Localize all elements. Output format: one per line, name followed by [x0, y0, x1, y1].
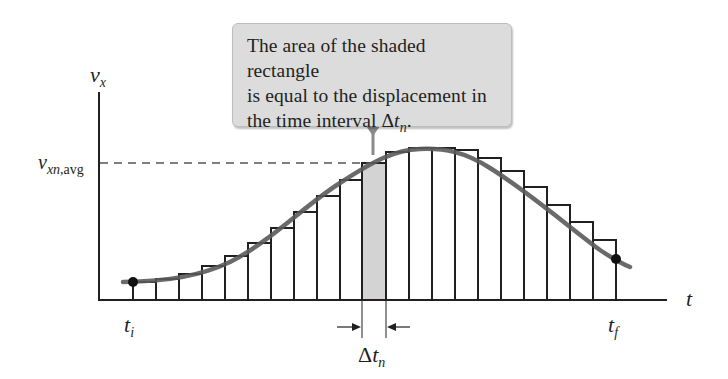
delta-t-arrows: [337, 323, 410, 331]
avg-velocity-label: vxn,avg: [38, 152, 84, 177]
callout-box: The area of the shaded rectangle is equa…: [232, 23, 512, 127]
shaded-rectangle: [362, 163, 386, 300]
callout-line-2: is equal to the displacement in: [247, 83, 499, 108]
end-point: [611, 254, 621, 264]
callout-line-1: The area of the shaded rectangle: [247, 33, 499, 83]
t-final-label: tf: [608, 314, 618, 340]
t-initial-label: ti: [124, 314, 134, 340]
callout-line-3: the time interval Δtn.: [247, 108, 499, 140]
delta-t-label: Δtn: [358, 344, 385, 370]
start-point: [128, 277, 138, 287]
y-axis-label: vx: [90, 64, 106, 90]
x-axis-label: t: [686, 288, 692, 310]
riemann-rectangles: [133, 148, 616, 300]
